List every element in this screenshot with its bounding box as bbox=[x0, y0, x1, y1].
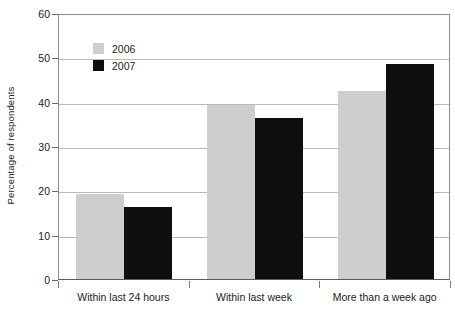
legend-item-2006: 2006 bbox=[93, 40, 135, 57]
bar-chart: Percentage of respondents 0102030405060 … bbox=[0, 0, 455, 323]
legend: 20062007 bbox=[93, 40, 135, 74]
bar-2007-3 bbox=[386, 64, 434, 279]
category-separator bbox=[58, 281, 59, 288]
y-tick-label: 20 bbox=[10, 185, 50, 197]
legend-label: 2006 bbox=[112, 43, 135, 55]
bar-2006-1 bbox=[76, 194, 124, 279]
legend-label: 2007 bbox=[112, 60, 135, 72]
bar-2006-2 bbox=[207, 105, 255, 279]
bar-2007-1 bbox=[124, 207, 172, 279]
legend-swatch-icon bbox=[93, 43, 104, 54]
category-separator bbox=[319, 281, 320, 288]
category-label-1: Within last 24 hours bbox=[77, 291, 169, 303]
bar-2006-3 bbox=[338, 91, 386, 279]
y-tick-label: 50 bbox=[10, 52, 50, 64]
y-tick-label: 0 bbox=[10, 274, 50, 286]
category-label-2: Within last week bbox=[216, 291, 292, 303]
y-tick-label: 60 bbox=[10, 8, 50, 20]
y-tick-label: 40 bbox=[10, 97, 50, 109]
category-label-3: More than a week ago bbox=[333, 291, 437, 303]
y-tick-label: 30 bbox=[10, 141, 50, 153]
legend-swatch-icon bbox=[93, 60, 104, 71]
legend-item-2007: 2007 bbox=[93, 57, 135, 74]
bar-2007-2 bbox=[255, 118, 303, 279]
y-tick-label: 10 bbox=[10, 230, 50, 242]
category-separator bbox=[189, 281, 190, 288]
category-separator bbox=[450, 281, 451, 288]
